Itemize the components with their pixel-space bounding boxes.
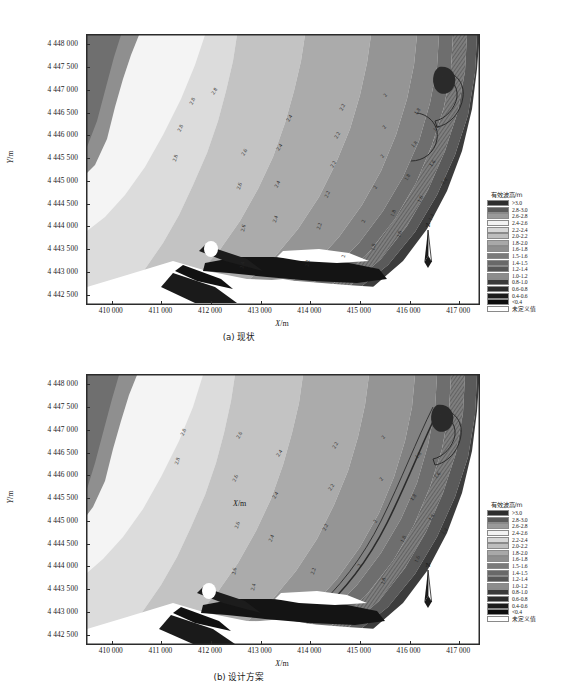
legend-row: 0.4-0.6 — [487, 292, 565, 299]
legend-color-swatch — [487, 596, 509, 602]
legend-label: 1.8-2.0 — [512, 240, 528, 246]
y-axis-labels-a: 4 448 0004 447 5004 447 0004 446 5004 44… — [0, 34, 82, 303]
y-axis-tick-mark — [87, 113, 90, 114]
legend-label: 0.6-0.8 — [512, 286, 528, 292]
x-axis-tick-label: 417 000 — [446, 646, 470, 655]
y-axis-unit: /m — [6, 151, 15, 159]
legend-label: 2.2-2.4 — [512, 537, 528, 543]
legend-items-b: >3.02.8-3.02.6-2.82.4-2.62.2-2.42.0-2.21… — [487, 510, 565, 622]
legend-title-b: 有效波高/m — [491, 500, 565, 509]
y-axis-tick-label: 4 447 000 — [48, 424, 78, 433]
legend-label: 1.6-1.8 — [512, 556, 528, 562]
plot-frame-b: 2.82.82.62.62.62.62.42.42.42.42.22.22.22… — [86, 374, 480, 645]
legend-label: 1.5-1.6 — [512, 253, 528, 259]
y-axis-tick-label: 4 446 000 — [48, 130, 78, 139]
contour-value-label: 2.2 — [303, 259, 310, 267]
legend-b: 有效波高/m >3.02.8-3.02.6-2.82.4-2.62.2-2.42… — [487, 500, 565, 622]
y-axis-tick-label: 4 445 500 — [48, 153, 78, 162]
y-axis-tick-label: 4 445 000 — [48, 175, 78, 184]
legend-color-swatch — [487, 200, 509, 206]
x-axis-tick-mark — [360, 641, 361, 644]
x-axis-tick-label: 410 000 — [99, 646, 123, 655]
legend-row: 2.4-2.6 — [487, 220, 565, 227]
x-axis-tick-label: 412 000 — [198, 306, 222, 315]
legend-row: 1.4-1.5 — [487, 569, 565, 576]
legend-row: 2.8-3.0 — [487, 517, 565, 524]
legend-row: 2.2-2.4 — [487, 226, 565, 233]
x-axis-title-a: X/m — [86, 319, 478, 328]
legend-label: 1.4-1.5 — [512, 570, 528, 576]
north-arrow-b: N — [417, 561, 439, 607]
y-axis-tick-label: 4 444 500 — [48, 198, 78, 207]
legend-color-swatch — [487, 279, 509, 285]
x-axis-tick-mark — [261, 641, 262, 644]
y-axis-tick-label: 4 446 500 — [48, 107, 78, 116]
legend-color-swatch — [487, 563, 509, 569]
legend-color-swatch — [487, 570, 509, 576]
legend-label: 2.4-2.6 — [512, 220, 528, 226]
legend-row: 2.2-2.4 — [487, 536, 565, 543]
x-axis-tick-mark — [459, 641, 460, 644]
y-axis-tick-mark — [87, 181, 90, 182]
y-axis-tick-label: 4 443 500 — [48, 584, 78, 593]
legend-row: >3.0 — [487, 200, 565, 207]
legend-row: 2.0-2.2 — [487, 543, 565, 550]
y-axis-tick-mark — [87, 589, 90, 590]
y-axis-title-text: Y — [6, 499, 15, 503]
legend-label: 0.8-1.0 — [512, 279, 528, 285]
y-axis-tick-label: 4 443 500 — [48, 244, 78, 253]
y-axis-labels-b: 4 448 0004 447 5004 447 0004 446 5004 44… — [0, 374, 82, 643]
y-axis-tick-label: 4 447 500 — [48, 61, 78, 70]
north-arrow-icon-b — [417, 570, 439, 608]
y-axis-tick-mark — [87, 612, 90, 613]
legend-color-swatch — [487, 530, 509, 536]
x-axis-tick-label: 413 000 — [248, 306, 272, 315]
legend-label: 未定义值 — [512, 614, 536, 623]
legend-row: 未定义值 — [487, 306, 565, 313]
y-axis-tick-mark — [87, 544, 90, 545]
panel-a: 4 448 0004 447 5004 447 0004 446 5004 44… — [0, 14, 570, 344]
panel-caption-a: (a) 现状 — [0, 330, 478, 342]
x-axis-tick-label: 415 000 — [347, 306, 371, 315]
y-axis-tick-label: 4 446 500 — [48, 447, 78, 456]
legend-color-swatch — [487, 583, 509, 589]
y-axis-tick-label: 4 447 000 — [48, 84, 78, 93]
x-axis-tick-mark — [360, 301, 361, 304]
y-axis-tick-mark — [87, 67, 90, 68]
legend-color-swatch — [487, 550, 509, 556]
legend-color-swatch — [487, 227, 509, 233]
y-axis-title-a: Y/m — [6, 151, 15, 164]
legend-label: 0.4-0.6 — [512, 293, 528, 299]
y-axis-tick-label: 4 443 000 — [48, 607, 78, 616]
legend-color-swatch — [487, 306, 509, 312]
x-axis-tick-mark — [410, 641, 411, 644]
legend-label: 0.6-0.8 — [512, 596, 528, 602]
legend-label: 1.4-1.5 — [512, 260, 528, 266]
legend-row: 0.8-1.0 — [487, 589, 565, 596]
x-axis-tick-label: 415 000 — [347, 646, 371, 655]
x-axis-labels-b: 410 000411 000412 000413 000414 000415 0… — [86, 646, 478, 660]
legend-color-swatch — [487, 240, 509, 246]
legend-label: 未定义值 — [512, 304, 536, 313]
legend-label: 2.8-3.0 — [512, 517, 528, 523]
legend-color-swatch — [487, 260, 509, 266]
x-axis-tick-label: 412 000 — [198, 646, 222, 655]
x-axis-tick-mark — [161, 301, 162, 304]
legend-row: 0.8-1.0 — [487, 279, 565, 286]
legend-color-swatch — [487, 517, 509, 523]
y-axis-tick-mark — [87, 249, 90, 250]
legend-row: 1.2-1.4 — [487, 576, 565, 583]
legend-row: 1.5-1.6 — [487, 253, 565, 260]
legend-row: 1.0-1.2 — [487, 273, 565, 280]
y-axis-tick-mark — [87, 498, 90, 499]
y-axis-tick-mark — [87, 295, 90, 296]
x-axis-labels-a: 410 000411 000412 000413 000414 000415 0… — [86, 306, 478, 320]
legend-row: 1.0-1.2 — [487, 583, 565, 590]
legend-row: 0.4-0.6 — [487, 602, 565, 609]
legend-label: 1.0-1.2 — [512, 273, 528, 279]
legend-color-swatch — [487, 589, 509, 595]
y-axis-tick-label: 4 447 500 — [48, 401, 78, 410]
legend-items-a: >3.02.8-3.02.6-2.82.4-2.62.2-2.42.0-2.21… — [487, 200, 565, 312]
x-axis-tick-mark — [310, 301, 311, 304]
